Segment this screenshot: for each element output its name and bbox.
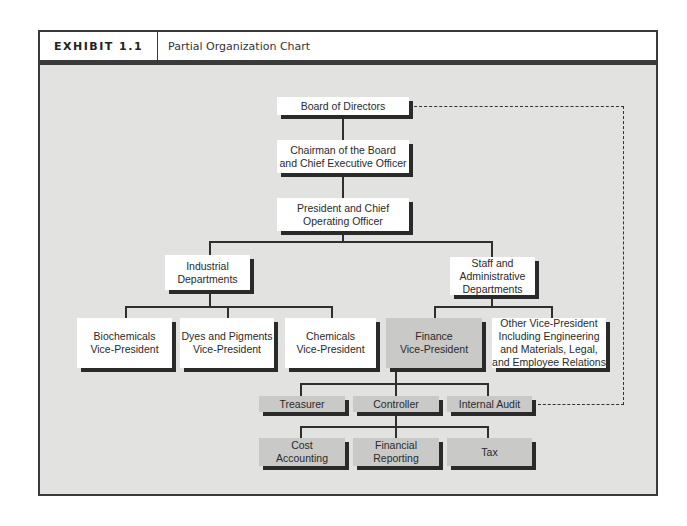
box-internal-audit: Internal Audit: [447, 396, 532, 412]
connector-board-ceo: [342, 115, 344, 140]
box-staff-departments: Staff and Administrative Departments: [450, 257, 535, 295]
box-other-vp: Other Vice-President Including Engineeri…: [492, 318, 606, 368]
box-president-coo: President and Chief Operating Officer: [277, 198, 409, 231]
connector-finance-down: [395, 368, 397, 396]
connector-ceo-coo: [342, 173, 344, 198]
connector-staff-branch: [434, 306, 552, 308]
box-treasurer: Treasurer: [259, 396, 345, 412]
box-board-of-directors: Board of Directors: [277, 97, 409, 115]
dashed-line-audit: [538, 404, 624, 405]
exhibit-label: EXHIBIT 1.1: [40, 32, 158, 60]
box-industrial-departments: Industrial Departments: [165, 255, 250, 290]
connector-to-biochem: [125, 306, 127, 318]
connector-to-finance: [434, 306, 436, 318]
connector-controller-down: [395, 412, 397, 438]
dashed-line-board: [414, 106, 624, 107]
connector-to-staff: [491, 241, 493, 257]
exhibit-title: Partial Organization Chart: [158, 32, 310, 60]
box-biochemicals-vp: Biochemicals Vice-President: [77, 318, 172, 368]
connector-to-treasurer: [300, 383, 302, 396]
box-chairman-ceo: Chairman of the Board and Chief Executiv…: [277, 140, 409, 173]
connector-to-chemicals: [331, 306, 333, 318]
connector-coo-branch: [209, 241, 492, 243]
exhibit-header: EXHIBIT 1.1 Partial Organization Chart: [38, 30, 658, 65]
dashed-line-vertical: [623, 106, 624, 405]
box-tax: Tax: [447, 438, 532, 466]
box-controller: Controller: [353, 396, 439, 412]
box-chemicals-vp: Chemicals Vice-President: [285, 318, 376, 368]
box-dyes-pigments-vp: Dyes and Pigments Vice-President: [180, 318, 274, 368]
box-financial-reporting: Financial Reporting: [353, 438, 439, 466]
connector-to-cost-accounting: [300, 426, 302, 438]
box-cost-accounting: Cost Accounting: [259, 438, 345, 466]
connector-controller-branch: [300, 426, 488, 428]
connector-industrial-down: [209, 290, 211, 307]
connector-to-industrial: [209, 241, 211, 255]
box-finance-vp: Finance Vice-President: [386, 318, 482, 368]
connector-to-internal-audit: [487, 383, 489, 396]
connector-finance-branch: [300, 383, 488, 385]
connector-to-dyes: [227, 306, 229, 318]
connector-to-tax: [487, 426, 489, 438]
